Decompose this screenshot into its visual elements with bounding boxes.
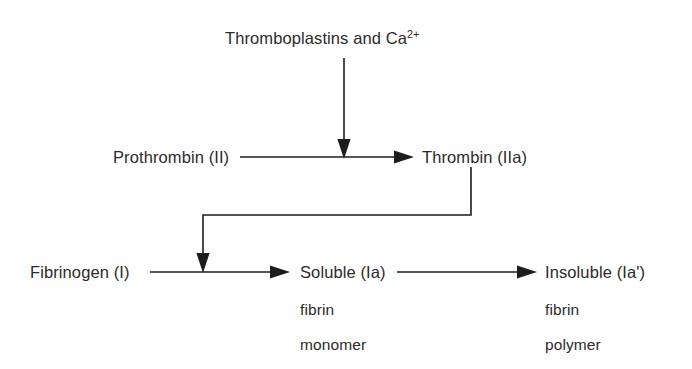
node-soluble: Soluble (Ia)	[300, 264, 386, 281]
node-soluble-sublabel-monomer: monomer	[300, 337, 366, 353]
node-thrombin: Thrombin (IIa)	[422, 149, 527, 166]
node-insoluble-sublabel-fibrin: fibrin	[545, 302, 579, 318]
node-thromboplastins-label: Thromboplastins and Ca	[225, 29, 407, 47]
node-insoluble-sublabel-polymer: polymer	[545, 337, 601, 353]
node-insoluble: Insoluble (Ia')	[545, 264, 645, 281]
arrow-layer	[0, 0, 692, 369]
arrow-fibrinogen-to-soluble	[150, 266, 290, 279]
arrow-thrombin-to-fibrin-conversion	[196, 167, 471, 273]
node-thromboplastins-superscript: 2+	[407, 28, 420, 40]
node-fibrinogen: Fibrinogen (I)	[30, 264, 130, 281]
arrow-thromboplastins-to-conversion	[337, 58, 350, 159]
node-prothrombin: Prothrombin (II)	[113, 149, 229, 166]
coagulation-cascade-diagram: Thromboplastins and Ca2+ Prothrombin (II…	[0, 0, 692, 369]
arrow-prothrombin-to-thrombin	[240, 151, 414, 164]
node-soluble-sublabel-fibrin: fibrin	[300, 302, 334, 318]
node-thromboplastins: Thromboplastins and Ca2+	[225, 30, 420, 47]
arrow-soluble-to-insoluble	[397, 266, 537, 279]
